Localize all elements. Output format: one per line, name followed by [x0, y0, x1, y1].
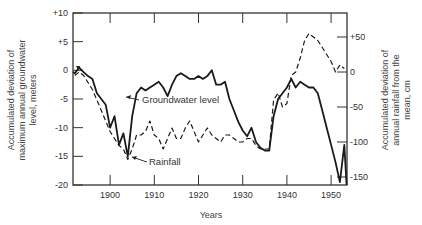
right-axis-title: Accumulated deviation of annual rainfall… [380, 49, 412, 150]
right-axis-title-line-3: mean, cm [402, 80, 412, 120]
x-tick-label: 1920 [188, 190, 208, 200]
right-axis-title-line-2: annual rainfall from the [391, 54, 401, 146]
annotations: Groundwater level Rainfall [76, 66, 219, 167]
x-axis-title: Years [200, 210, 223, 220]
right-tick-label: 0 [350, 67, 355, 77]
x-tick-label: 1900 [100, 190, 120, 200]
x-tick-label: 1940 [277, 190, 297, 200]
groundwater-annotation: Groundwater level [142, 94, 219, 105]
left-tick-label: -20 [55, 180, 68, 190]
left-tick-label: -5 [60, 94, 68, 104]
right-tick-label: +50 [350, 32, 365, 42]
right-tick-label: -100 [350, 137, 368, 147]
series-layer [73, 34, 347, 186]
right-tick-label: -50 [350, 102, 363, 112]
right-tick-label: -150 [350, 172, 368, 182]
left-axis-title-line-3: level, meters [28, 74, 38, 126]
left-axis-title-line-2: maximum annual groundwater [17, 39, 27, 160]
rainfall-annotation: Rainfall [149, 156, 181, 167]
left-tick-label: -15 [55, 151, 68, 161]
groundwater-rainfall-chart: +10+50-5-10-15-20 +500-50-100-150 190019… [0, 0, 422, 225]
x-tick-label: 1930 [233, 190, 253, 200]
left-tick-label: -10 [55, 123, 68, 133]
left-y-axis: +10+50-5-10-15-20 [53, 8, 83, 190]
left-axis-title: Accumulated deviation of maximum annual … [6, 39, 38, 160]
x-tick-label: 1950 [321, 190, 341, 200]
x-tick-label: 1910 [144, 190, 164, 200]
left-tick-label: 0 [63, 65, 68, 75]
left-tick-label: +5 [58, 37, 68, 47]
groundwater-line [73, 68, 347, 186]
right-y-axis: +500-50-100-150 [337, 32, 368, 182]
left-tick-label: +10 [53, 8, 68, 18]
right-axis-title-line-1: Accumulated deviation of [380, 49, 390, 150]
left-axis-title-line-1: Accumulated deviation of [6, 49, 16, 150]
